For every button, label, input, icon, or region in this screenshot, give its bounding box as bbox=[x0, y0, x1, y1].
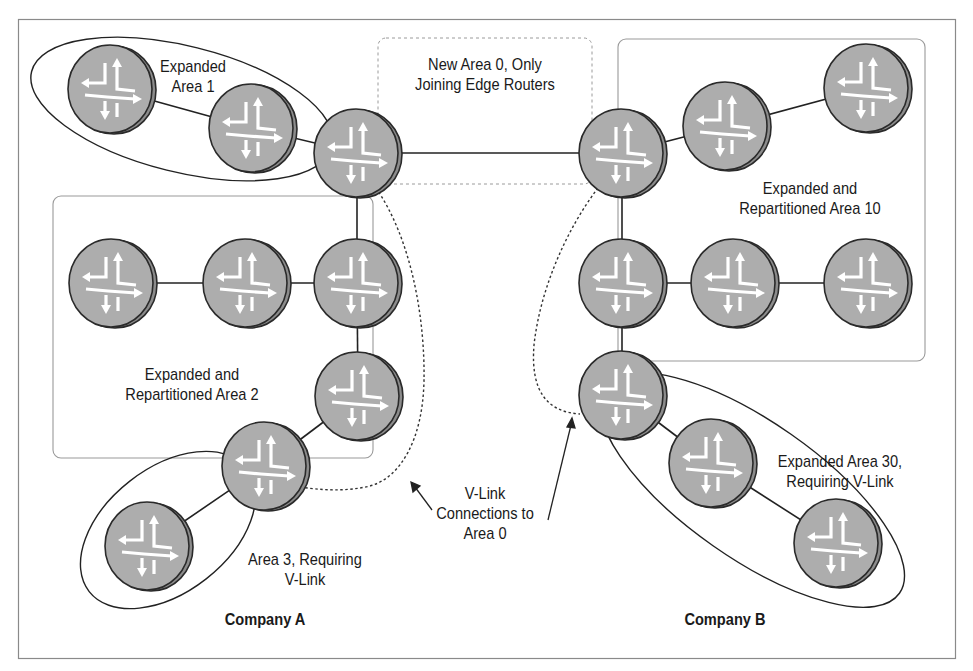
router-icon-b10-3 bbox=[579, 239, 667, 328]
router-icon-a2-3 bbox=[314, 239, 402, 328]
router-icon-a2-4 bbox=[315, 352, 403, 441]
router-icon-b10-1 bbox=[683, 82, 771, 171]
router-icon-a1-mid bbox=[209, 84, 297, 173]
label-vlink-connections: V-Link Connections to Area 0 bbox=[421, 484, 550, 544]
label-company-a: Company A bbox=[213, 610, 316, 630]
router-icon-a2-2 bbox=[203, 239, 291, 328]
label-area-3: Area 3, Requiring V-Link bbox=[236, 550, 374, 590]
label-area-1: Expanded Area 1 bbox=[154, 57, 231, 97]
label-area-2: Expanded and Repartitioned Area 2 bbox=[106, 365, 278, 405]
router-icon-a-edge bbox=[314, 109, 402, 198]
ospf-area-diagram bbox=[0, 0, 973, 671]
router-icon-b30-mid bbox=[669, 419, 757, 508]
router-icon-a3-abr bbox=[222, 422, 310, 511]
router-icon-b10-2 bbox=[824, 44, 912, 133]
router-icon-a2-1 bbox=[69, 239, 157, 328]
label-area-0: New Area 0, Only Joining Edge Routers bbox=[408, 55, 563, 95]
router-icon-b-edge bbox=[579, 109, 667, 198]
router-icon-b10-4 bbox=[691, 239, 779, 328]
router-icon-b30-abr bbox=[579, 351, 667, 440]
router-icon-a3-leaf bbox=[105, 502, 193, 591]
router-icon-b30-leaf bbox=[794, 499, 882, 588]
label-area-30: Expanded Area 30, Requiring V-Link bbox=[767, 452, 913, 492]
router-icon-b10-5 bbox=[824, 239, 912, 328]
router-icon-a1-left bbox=[68, 45, 156, 134]
label-area-10: Expanded and Repartitioned Area 10 bbox=[733, 179, 888, 219]
label-company-b: Company B bbox=[673, 610, 776, 630]
vlink-a-path bbox=[300, 188, 424, 490]
